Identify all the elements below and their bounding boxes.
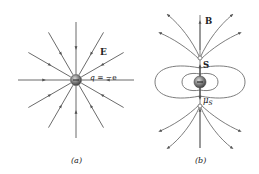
arrow-icon (91, 106, 92, 108)
caption-b: (b) (195, 156, 206, 165)
caption-a: (a) (71, 156, 82, 165)
label-b-field: B (205, 16, 212, 26)
label-e-field: E (100, 47, 107, 57)
label-charge: q = −e (90, 73, 117, 82)
arrow-icon (60, 52, 61, 54)
label-mu-subscript: S (209, 99, 213, 106)
axis-marker-top (198, 56, 202, 60)
arrow-icon (48, 64, 50, 65)
arrow-icon (102, 64, 104, 65)
axis-marker-bottom (198, 104, 202, 108)
panel-a-charge (71, 75, 82, 86)
label-spin: S (203, 60, 209, 70)
arrow-icon (102, 95, 104, 96)
arrow-icon (48, 95, 50, 96)
panel-b-electron (194, 76, 206, 88)
label-magnetic-moment: μS (203, 95, 213, 106)
arrow-icon (60, 106, 61, 108)
figure: E q = −e (a) B S μS (b) (0, 0, 259, 174)
label-charge-value: = −e (95, 73, 117, 82)
arrow-icon (91, 52, 92, 54)
